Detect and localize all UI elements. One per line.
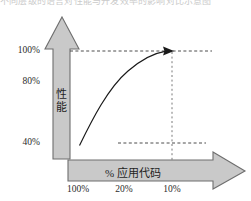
x-axis-tick-10: 10% (152, 184, 192, 194)
performance-curve (80, 51, 166, 145)
performance-curve-arrowhead (163, 47, 174, 56)
x-axis-tick-20: 20% (104, 184, 144, 194)
x-axis-tick-100: 100% (58, 184, 98, 194)
figure-root: 不同层级的语言对性能与开发效率的影响对比示意图 100% 80% 40% 性能 … (0, 0, 251, 201)
x-axis-title: % 应用代码 (105, 164, 161, 180)
y-axis-tick-100: 100% (6, 45, 40, 55)
y-axis-tick-80: 80% (6, 76, 40, 86)
y-axis-title: 性能 (54, 88, 69, 114)
y-axis-tick-40: 40% (6, 137, 40, 147)
